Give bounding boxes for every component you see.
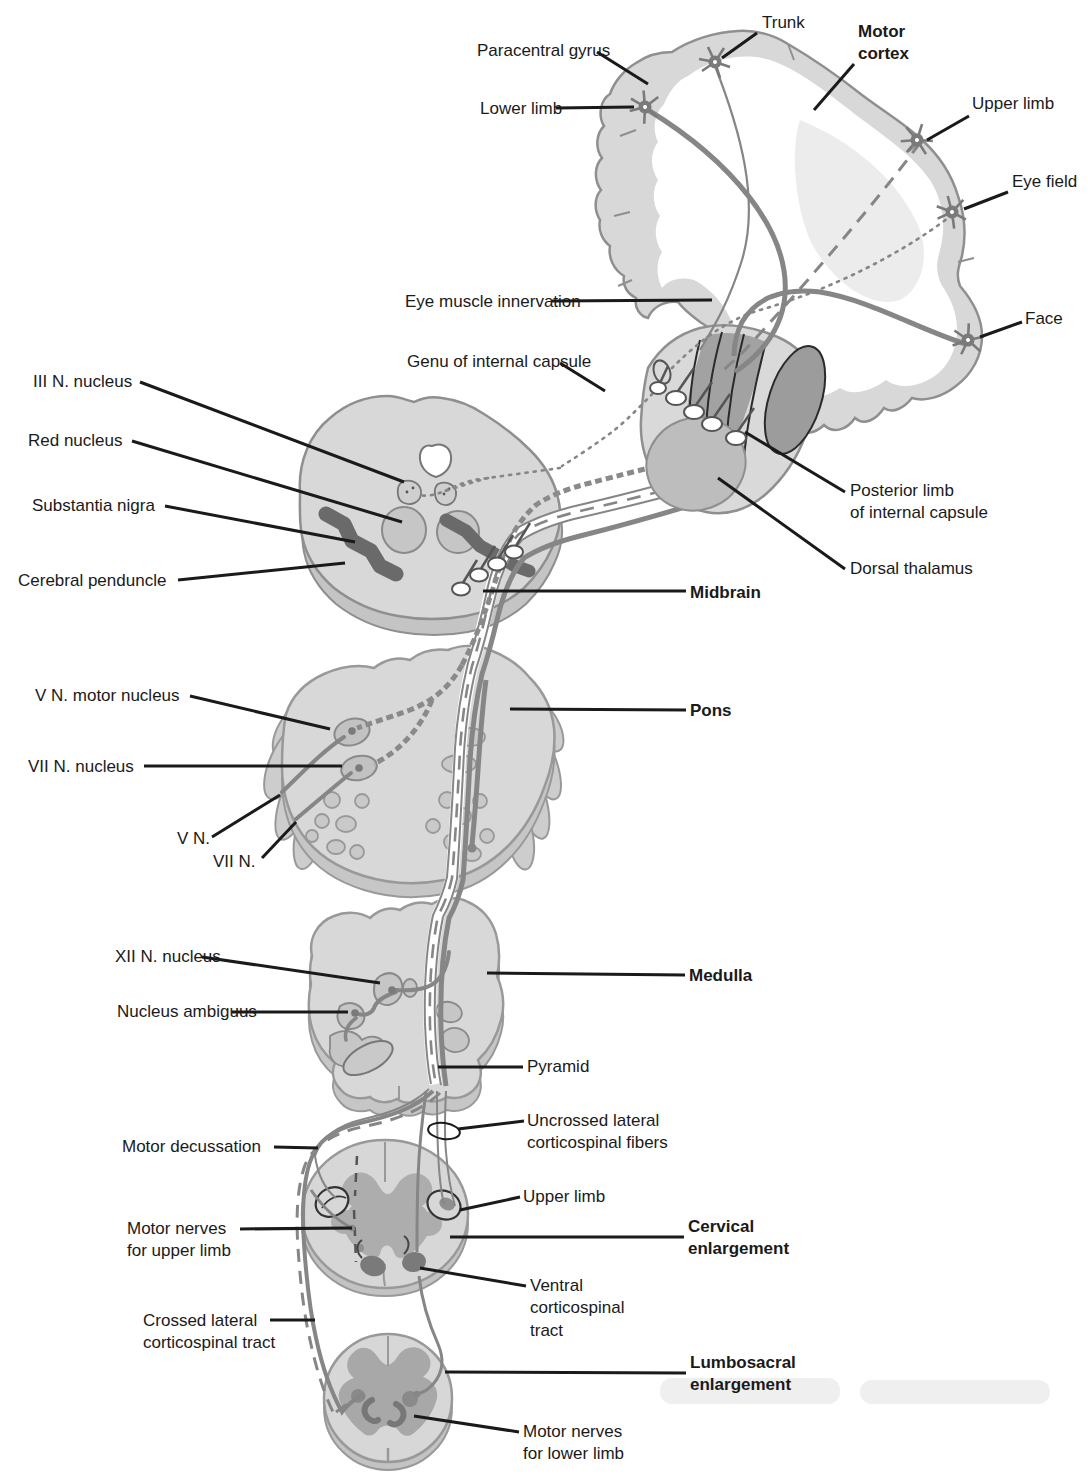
leader-motor-nerves-upper [240, 1228, 352, 1229]
label-vii-n: VII N. [213, 851, 256, 873]
label-cerebral-peduncle: Cerebral penduncle [18, 570, 166, 592]
label-motor-cortex: Motor cortex [858, 21, 909, 66]
label-eye-muscle-innervation: Eye muscle innervation [405, 291, 581, 313]
label-lower-limb: Lower limb [480, 98, 562, 120]
medulla-section [309, 898, 503, 1115]
label-upper-limb: Upper limb [972, 93, 1054, 115]
leader-dorsal-thalamus [718, 478, 845, 569]
figure-canvas: Paracentral gyrus Trunk Motor cortex Low… [0, 0, 1088, 1476]
label-red-nucleus: Red nucleus [28, 430, 123, 452]
label-genu: Genu of internal capsule [407, 351, 591, 373]
label-ventral-tract: Ventral corticospinal tract [530, 1275, 625, 1342]
leader-upper-limb [927, 116, 969, 140]
label-cervical-enlargement: Cervical enlargement [688, 1216, 789, 1261]
leader-lower-limb [556, 107, 634, 108]
leader-motor-decussation [274, 1147, 318, 1148]
label-paracentral-gyrus: Paracentral gyrus [477, 40, 610, 62]
label-face: Face [1025, 308, 1063, 330]
label-vii-n-nucleus: VII N. nucleus [28, 756, 134, 778]
label-medulla: Medulla [689, 965, 752, 987]
label-substantia-nigra: Substantia nigra [32, 495, 155, 517]
label-pons: Pons [690, 700, 732, 722]
label-posterior-limb: Posterior limb of internal capsule [850, 480, 988, 525]
label-eye-field: Eye field [1012, 171, 1077, 193]
label-uncrossed-fibers: Uncrossed lateral corticospinal fibers [527, 1110, 668, 1155]
leader-uncrossed [458, 1121, 524, 1129]
leader-lumbosacral-enlargement [445, 1372, 686, 1373]
leader-v-n [212, 795, 280, 837]
label-motor-decussation: Motor decussation [122, 1136, 261, 1158]
label-upper-limb-cord: Upper limb [523, 1186, 605, 1208]
label-motor-nerves-lower: Motor nerves for lower limb [523, 1421, 624, 1466]
leader-eye-field [964, 192, 1008, 209]
label-lumbosacral-enlargement: Lumbosacral enlargement [690, 1352, 796, 1397]
midbrain-section [300, 396, 562, 635]
label-crossed-tract: Crossed lateral corticospinal tract [143, 1310, 275, 1355]
leader-medulla [487, 973, 685, 975]
leader-upper-limb-cord [460, 1197, 520, 1210]
label-nucleus-ambiguus: Nucleus ambiguus [117, 1001, 257, 1023]
leader-face [980, 322, 1022, 337]
label-v-n: V N. [177, 828, 210, 850]
label-pyramid: Pyramid [527, 1056, 589, 1078]
label-xii-n-nucleus: XII N. nucleus [115, 946, 221, 968]
red-nucleus-left [382, 507, 426, 553]
label-midbrain: Midbrain [690, 582, 761, 604]
label-iii-n-nucleus: III N. nucleus [33, 371, 132, 393]
label-v-n-motor-nucleus: V N. motor nucleus [35, 685, 180, 707]
label-trunk: Trunk [762, 12, 805, 34]
label-motor-nerves-upper: Motor nerves for upper limb [127, 1218, 231, 1263]
lumbosacral-section [324, 1334, 452, 1470]
label-dorsal-thalamus: Dorsal thalamus [850, 558, 973, 580]
leader-pons [510, 709, 686, 710]
